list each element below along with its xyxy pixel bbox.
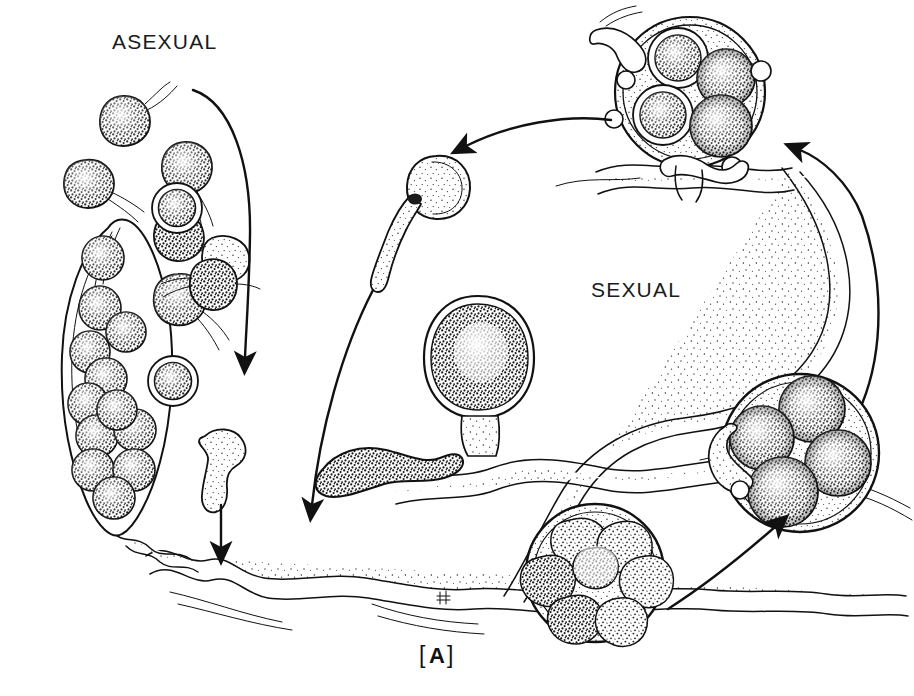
plate-label: [ A ]	[419, 642, 453, 668]
label-sexual: SEXUAL	[591, 278, 681, 301]
young-oogonium-nucleus-core	[454, 322, 508, 382]
antheridium-contact-node	[617, 71, 635, 89]
encysted-zoospore	[148, 356, 198, 406]
antheridium-contact-node	[751, 61, 771, 81]
sporangium-spore	[97, 390, 137, 430]
oospore-thickwalled	[690, 95, 752, 157]
oospore	[748, 457, 818, 527]
life-cycle-diagram: ASEXUAL SEXUAL [ A ]	[0, 0, 914, 696]
young-oogonium-stalk	[461, 416, 499, 456]
plate-label-letter: A	[429, 643, 445, 668]
figure-root: ASEXUAL SEXUAL [ A ]	[0, 0, 914, 696]
sporangium-spore	[82, 236, 124, 280]
label-asexual: ASEXUAL	[112, 30, 217, 53]
plate-label-open: [	[419, 642, 426, 668]
sporangium-spore	[106, 312, 146, 352]
encysted-zoospore	[152, 183, 202, 233]
oogonium-central-highlight	[574, 546, 618, 586]
sporangium-spore	[93, 477, 135, 519]
oospore-thickwalled	[633, 85, 693, 145]
oospore	[595, 598, 647, 647]
germ-tube-plug	[408, 194, 422, 205]
antheridium-fertilization-tube	[731, 481, 749, 499]
plate-label-close: ]	[447, 642, 453, 668]
oospore	[548, 595, 603, 644]
